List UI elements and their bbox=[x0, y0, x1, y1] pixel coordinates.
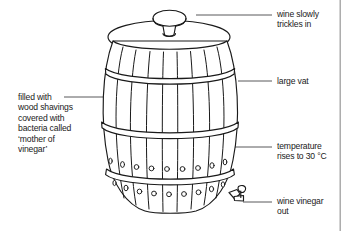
vat-body bbox=[103, 41, 237, 213]
spigot-tap bbox=[229, 186, 246, 201]
label-wine-vinegar-out: wine vinegar out bbox=[277, 196, 339, 217]
label-temperature-rises: temperature rises to 30 °C bbox=[277, 141, 341, 162]
label-filled-with-wood-shavings: filled with wood shavings covered with b… bbox=[18, 92, 98, 154]
diagram-page: wine slowly trickles in large vat temper… bbox=[0, 0, 341, 231]
tap-handle bbox=[238, 186, 246, 193]
label-wine-slowly-trickles-in: wine slowly trickles in bbox=[277, 9, 339, 30]
label-large-vat: large vat bbox=[277, 76, 339, 86]
tap-spout bbox=[234, 196, 244, 202]
vat-drawing bbox=[102, 10, 246, 213]
